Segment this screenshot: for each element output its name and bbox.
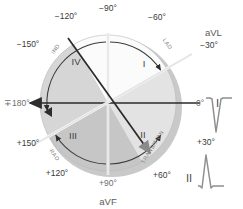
hexaxial-diagram-canvas: I II III IV LAD RAD IND TRANSITION −90° …: [0, 0, 243, 209]
quadrant-label-IV: IV: [72, 56, 82, 67]
quadrant-label-II: II: [140, 129, 145, 140]
degree-label-minus-60: −60°: [148, 12, 166, 22]
degree-label-plus-90: +90°: [99, 178, 117, 188]
lead-label-II: II: [186, 172, 192, 184]
degree-label-minus-90: −90°: [99, 3, 117, 13]
quadrant-label-III: III: [69, 130, 77, 141]
degree-label-minus-150: −150°: [17, 39, 40, 49]
degree-label-minus-30: −30°: [200, 40, 218, 50]
degree-label-minus-120: −120°: [55, 11, 78, 21]
degree-label-plus-120: +120°: [46, 168, 69, 178]
degree-label-plus-150: +150°: [17, 138, 40, 148]
arc-label-lad: LAD: [162, 37, 174, 50]
lead-label-avf: aVF: [99, 196, 117, 207]
arc-label-ind: IND: [50, 43, 61, 55]
lead-label-avl: aVL: [205, 27, 222, 38]
degree-label-pm-180: ∓180°: [4, 98, 30, 108]
degree-label-plus-30: +30°: [197, 137, 215, 147]
quadrant-label-I: I: [143, 58, 146, 69]
degree-label-plus-60: +60°: [153, 170, 171, 180]
lead-label-I: I: [216, 97, 219, 109]
lead-II-complex: [198, 155, 224, 188]
degree-label-zero: 0°: [196, 98, 204, 108]
